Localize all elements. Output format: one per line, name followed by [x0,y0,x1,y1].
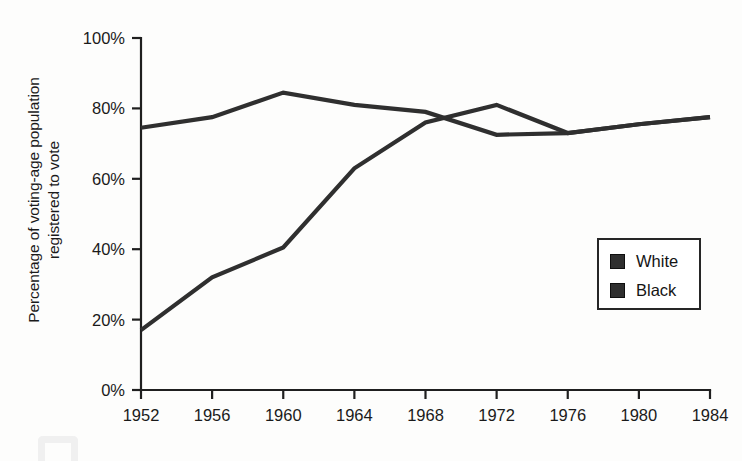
x-tick-label: 1964 [336,406,373,424]
x-tick-label: 1960 [265,406,302,424]
y-tick-label: 100% [83,29,126,47]
x-tick-label: 1968 [407,406,444,424]
chart-legend: White Black [597,238,701,310]
scan-edge-artifact [38,436,78,461]
x-tick-label: 1952 [123,406,160,424]
y-tick-label: 0% [101,381,125,399]
y-tick-label: 20% [92,311,125,329]
x-tick-label: 1972 [478,406,515,424]
x-tick-label: 1980 [621,406,658,424]
legend-swatch-white-icon [610,254,625,269]
y-axis-ticks: 0%20%40%60%80%100% [83,29,141,399]
x-axis-ticks: 195219561960196419681972197619801984 [123,390,729,424]
x-tick-label: 1976 [549,406,586,424]
y-tick-label: 60% [92,170,125,188]
x-tick-label: 1956 [194,406,231,424]
voter-registration-line-chart: Percentage of voting-age population regi… [0,0,742,461]
legend-item-black: Black [610,276,699,305]
y-tick-label: 80% [92,99,125,117]
legend-item-white: White [610,247,699,276]
legend-label-white: White [636,252,678,271]
series-line-white [141,93,710,135]
plot-area: 0%20%40%60%80%100% 195219561960196419681… [0,0,742,461]
y-tick-label: 40% [92,240,125,258]
x-tick-label: 1984 [692,406,729,424]
legend-swatch-black-icon [610,283,625,298]
legend-label-black: Black [636,281,676,300]
